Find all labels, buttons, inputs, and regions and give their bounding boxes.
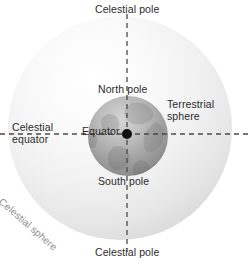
celestial-sphere-diagram: Celestial pole Celestial pole Celestial … — [0, 0, 249, 265]
label-terrestrial-sphere: Terrestrial sphere — [167, 99, 214, 122]
label-celestial-equator: Celestial equator — [12, 122, 53, 145]
center-point-marker — [122, 129, 132, 139]
label-celestial-equator-line1: Celestial — [12, 122, 53, 134]
label-equator: Equator — [82, 126, 119, 138]
label-north-pole: North pole — [98, 84, 147, 96]
label-south-pole: South pole — [98, 176, 149, 188]
label-terrestrial-sphere-line2: sphere — [167, 111, 214, 123]
label-terrestrial-sphere-line1: Terrestrial — [167, 99, 214, 111]
label-celestial-pole-bottom: Celestial pole — [95, 247, 159, 259]
label-celestial-pole-top: Celestial pole — [95, 4, 159, 16]
label-celestial-equator-line2: equator — [12, 134, 53, 146]
